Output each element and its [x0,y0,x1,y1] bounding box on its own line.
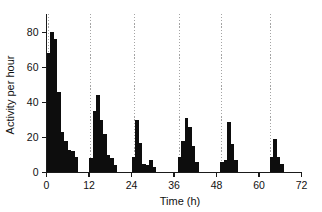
x-tick-label: 60 [253,179,265,191]
bar [181,141,185,173]
bar [142,164,146,173]
y-tick-label: 0 [33,166,39,178]
bar [273,139,277,172]
bar [231,144,235,172]
bar [195,162,199,173]
bar [132,157,136,173]
bar [139,143,143,173]
x-tick-label: 36 [168,179,180,191]
bar [61,132,65,172]
bar [57,92,61,173]
bar [103,134,107,173]
x-tick-label: 72 [296,179,308,191]
y-tick-label: 40 [27,96,39,108]
bar [135,120,139,173]
bar [188,127,192,173]
bar [50,32,54,172]
bar [277,157,281,173]
bar [149,160,153,172]
x-tick-label: 0 [44,179,50,191]
bar [178,157,182,173]
y-tick-label: 20 [27,131,39,143]
bar [75,157,79,173]
x-tick-label: 24 [126,179,138,191]
bar [68,150,72,173]
bar [146,165,150,172]
x-axis-title: Time (h) [160,195,201,207]
bar [114,165,118,172]
bar [227,122,231,173]
bar [54,39,58,172]
y-axis-title: Activity per hour [4,55,16,134]
x-tick-label: 48 [211,179,223,191]
bar [153,167,157,172]
bar [96,95,100,172]
bar [224,160,228,172]
bar [192,146,196,172]
bar [93,111,97,172]
bar [220,162,224,173]
activity-histogram-figure: 0122436486072 020406080 Time (h) Activit… [0,0,322,212]
y-tick-label: 60 [27,61,39,73]
chart-canvas: 0122436486072 020406080 Time (h) Activit… [0,0,322,212]
bar [89,158,93,172]
bar [107,155,111,173]
bar [185,118,189,172]
bar [280,164,284,173]
x-tick-label: 12 [83,179,95,191]
y-tick-label: 80 [27,26,39,38]
bar [234,160,238,172]
bar [100,120,104,173]
bar [71,151,75,172]
bar [64,141,68,173]
bar [270,157,274,173]
bar [110,158,114,172]
